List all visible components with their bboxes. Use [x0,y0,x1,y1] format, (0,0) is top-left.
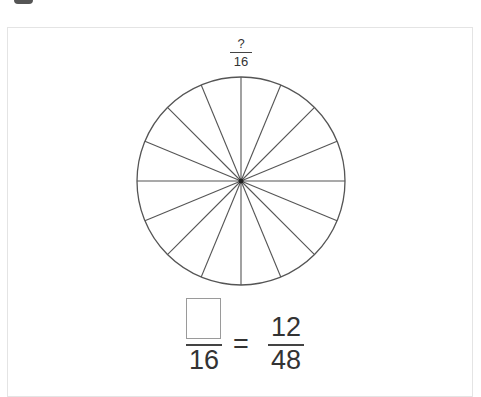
wheel-center-dot [239,179,244,184]
wheel-spoke [241,181,315,255]
wheel-spoke [167,107,241,181]
answer-numerator-input[interactable] [186,298,221,339]
wheel-spoke [241,107,315,181]
right-denominator: 48 [271,345,301,376]
equals-sign: = [233,329,249,360]
wheel-spoke [167,181,241,255]
right-numerator: 12 [271,312,301,343]
left-denominator: 16 [189,345,219,376]
